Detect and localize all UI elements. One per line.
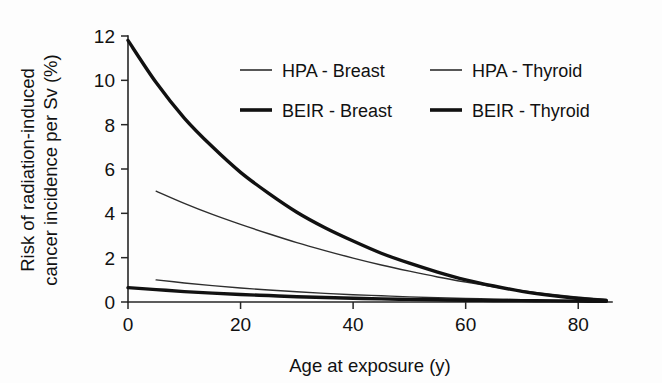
- x-axis-title: Age at exposure (y): [289, 355, 450, 376]
- x-tick-label: 20: [230, 314, 251, 335]
- chart-plot-area: 024681012 020406080 Age at exposure (y) …: [0, 0, 662, 383]
- x-tick-label: 40: [343, 314, 364, 335]
- y-tick-group: 024681012: [94, 26, 128, 313]
- x-tick-label: 80: [568, 314, 589, 335]
- y-tick-label: 10: [94, 70, 115, 91]
- y-tick-label: 8: [104, 115, 115, 136]
- legend: HPA - Breast HPA - Thyroid BEIR - Breast…: [240, 61, 590, 121]
- y-tick-label: 0: [104, 292, 115, 313]
- y-tick-label: 12: [94, 26, 115, 47]
- legend-label-beir-breast: BEIR - Breast: [282, 101, 392, 121]
- x-tick-label: 0: [123, 314, 134, 335]
- y-tick-label: 6: [104, 159, 115, 180]
- x-tick-label: 60: [455, 314, 476, 335]
- y-tick-label: 2: [104, 248, 115, 269]
- chart-figure: 024681012 020406080 Age at exposure (y) …: [0, 0, 662, 383]
- y-axis-title-line2: cancer incidence per Sv (%): [40, 54, 61, 285]
- series-line-hpa-thyroid: [156, 191, 606, 299]
- y-tick-label: 4: [104, 203, 115, 224]
- legend-label-hpa-breast: HPA - Breast: [282, 61, 385, 81]
- legend-label-hpa-thyroid: HPA - Thyroid: [472, 61, 582, 81]
- y-axis-title-line1: Risk of radiation-induced: [17, 68, 38, 272]
- x-tick-group: 020406080: [123, 302, 589, 335]
- legend-label-beir-thyroid: BEIR - Thyroid: [472, 101, 590, 121]
